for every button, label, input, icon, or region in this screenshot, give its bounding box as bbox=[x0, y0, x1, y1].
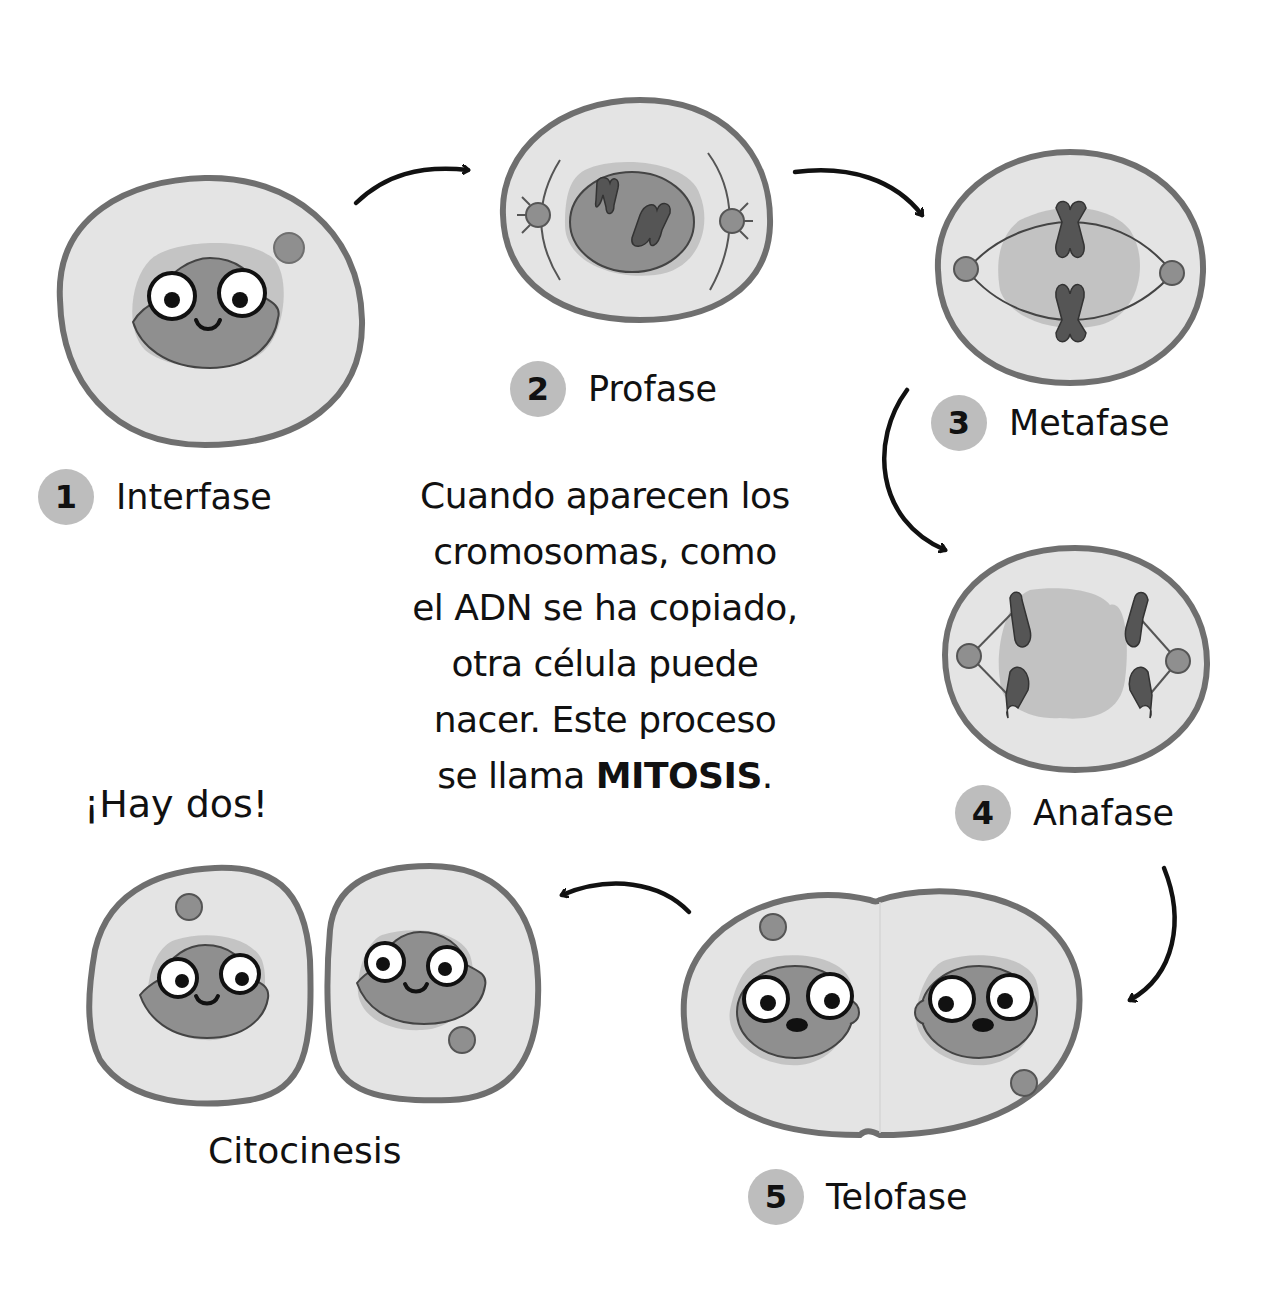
phase-name: Anafase bbox=[1033, 793, 1174, 833]
phase-name: Telofase bbox=[826, 1177, 968, 1217]
narration-line: otra célula puede bbox=[385, 636, 825, 692]
phase-number-badge: 5 bbox=[748, 1169, 804, 1225]
cell-metafase bbox=[938, 152, 1203, 383]
narration-line: nacer. Este proceso bbox=[385, 692, 825, 748]
phase-number-badge: 4 bbox=[955, 785, 1011, 841]
phase-label-profase: 2 Profase bbox=[510, 361, 717, 417]
phase-number-badge: 2 bbox=[510, 361, 566, 417]
phase-number-badge: 1 bbox=[38, 469, 94, 525]
arrow-icon bbox=[356, 169, 468, 203]
cell-telofase bbox=[684, 891, 1080, 1135]
phase-name: Interfase bbox=[116, 477, 272, 517]
narration-prefix: se llama bbox=[437, 755, 595, 796]
phase-label-metafase: 3 Metafase bbox=[931, 395, 1169, 451]
phase-label-anafase: 4 Anafase bbox=[955, 785, 1174, 841]
cell-interfase bbox=[60, 178, 362, 445]
narration-line: cromosomas, como bbox=[385, 524, 825, 580]
phase-label-interfase: 1 Interfase bbox=[38, 469, 272, 525]
phase-number-badge: 3 bbox=[931, 395, 987, 451]
narration-line: el ADN se ha copiado, bbox=[385, 580, 825, 636]
arrow-icon bbox=[562, 884, 689, 912]
cell-citocinesis-right bbox=[327, 866, 538, 1100]
narration-line: Cuando aparecen los bbox=[385, 468, 825, 524]
narration-suffix: . bbox=[762, 755, 773, 796]
phase-name: Metafase bbox=[1009, 403, 1169, 443]
narration-line-last: se llama MITOSIS. bbox=[385, 748, 825, 804]
phase-label-telofase: 5 Telofase bbox=[748, 1169, 968, 1225]
cell-citocinesis-left bbox=[89, 868, 310, 1104]
narration-emphasis: MITOSIS bbox=[596, 755, 762, 796]
cell-anafase bbox=[945, 548, 1207, 770]
arrow-icon bbox=[795, 170, 922, 215]
exclamation-text: ¡Hay dos! bbox=[84, 782, 268, 826]
narration-text: Cuando aparecen los cromosomas, como el … bbox=[385, 468, 825, 804]
cell-profase bbox=[503, 100, 770, 320]
phase-name: Profase bbox=[588, 369, 717, 409]
arrow-icon bbox=[1130, 868, 1175, 1000]
phase-label-citocinesis: Citocinesis bbox=[208, 1130, 402, 1171]
